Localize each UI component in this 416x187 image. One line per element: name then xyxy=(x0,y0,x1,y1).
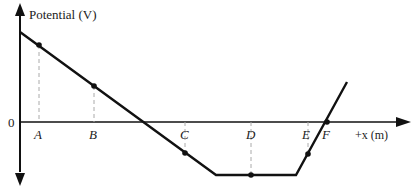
point-d-dot xyxy=(248,172,254,178)
potential-diagram: Potential (V) 0 A B C D E F +x (m) xyxy=(0,0,416,187)
x-axis-label: +x (m) xyxy=(355,128,388,142)
point-b-dot xyxy=(91,83,97,89)
y-axis-down-arrow-icon xyxy=(15,173,25,186)
label-c: C xyxy=(180,127,189,142)
dashed-guides xyxy=(39,45,308,175)
label-f: F xyxy=(321,127,331,142)
label-d: D xyxy=(245,127,256,142)
label-b: B xyxy=(89,127,97,142)
y-axis-up-arrow-icon xyxy=(15,3,25,16)
point-markers xyxy=(36,42,330,178)
origin-label: 0 xyxy=(8,115,15,130)
label-a: A xyxy=(33,127,42,142)
y-axis-label: Potential (V) xyxy=(29,7,97,22)
label-e: E xyxy=(301,127,310,142)
point-a-dot xyxy=(36,42,42,48)
point-f-dot xyxy=(324,119,330,125)
point-e-dot xyxy=(305,151,311,157)
x-axis-arrow-icon xyxy=(396,117,411,127)
point-c-dot xyxy=(182,150,188,156)
